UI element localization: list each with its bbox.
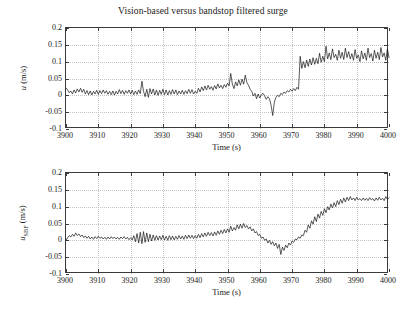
x-tick-label: 3960 <box>251 131 267 140</box>
x-tick-label: 3940 <box>186 131 202 140</box>
y-tick-label: 0.15 <box>48 39 62 48</box>
y-tick <box>66 274 69 275</box>
y-tick-label: 0.2 <box>52 168 62 177</box>
x-tick-label: 3990 <box>348 276 364 285</box>
x-tick-label: 3980 <box>315 276 331 285</box>
x-tick-label: 3960 <box>251 276 267 285</box>
x-tick-label: 3950 <box>219 276 235 285</box>
x-axis-label: Time (s) <box>212 287 241 297</box>
x-tick-label: 3940 <box>186 276 202 285</box>
x-tick-label: 3970 <box>283 131 299 140</box>
plot-area-bottom <box>65 172 388 273</box>
x-tick-label: 3990 <box>348 131 364 140</box>
x-tick-label: 3920 <box>122 131 138 140</box>
y-tick-label: 0.15 <box>48 184 62 193</box>
y-tick-label: 0 <box>58 235 62 244</box>
y-tick-label: 0.1 <box>52 56 62 65</box>
data-trace-svg <box>66 173 389 274</box>
x-tick-label: 3930 <box>154 276 170 285</box>
x-tick-label: 4000 <box>380 276 396 285</box>
x-axis-label: Time (s) <box>212 142 241 152</box>
y-tick-label: 0 <box>58 90 62 99</box>
x-tick-top <box>389 173 390 176</box>
x-tick-label: 3910 <box>89 276 105 285</box>
x-tick-label: 4000 <box>380 131 396 140</box>
y-axis-label: u (m/s) <box>18 65 28 89</box>
y-axis-label: uSBF (m/s) <box>17 205 29 240</box>
y-tick-label: -0.05 <box>45 107 62 116</box>
y-tick-label: 0.05 <box>48 73 62 82</box>
y-tick-label: 0.1 <box>52 201 62 210</box>
x-tick <box>389 269 390 272</box>
x-tick-label: 3980 <box>315 131 331 140</box>
y-tick-label: -0.1 <box>49 269 62 278</box>
figure-canvas: Vision-based versus bandstop filtered su… <box>0 0 406 317</box>
x-tick-label: 3970 <box>283 276 299 285</box>
x-tick-label: 3930 <box>154 131 170 140</box>
y-tick-label: -0.1 <box>49 124 62 133</box>
x-tick-label: 3920 <box>122 276 138 285</box>
x-tick-label: 3950 <box>219 131 235 140</box>
y-tick-right <box>384 274 387 275</box>
y-tick-label: 0.2 <box>52 23 62 32</box>
series-line <box>66 197 389 255</box>
x-tick-label: 3910 <box>89 131 105 140</box>
y-tick-label: -0.05 <box>45 252 62 261</box>
y-tick-label: 0.05 <box>48 218 62 227</box>
